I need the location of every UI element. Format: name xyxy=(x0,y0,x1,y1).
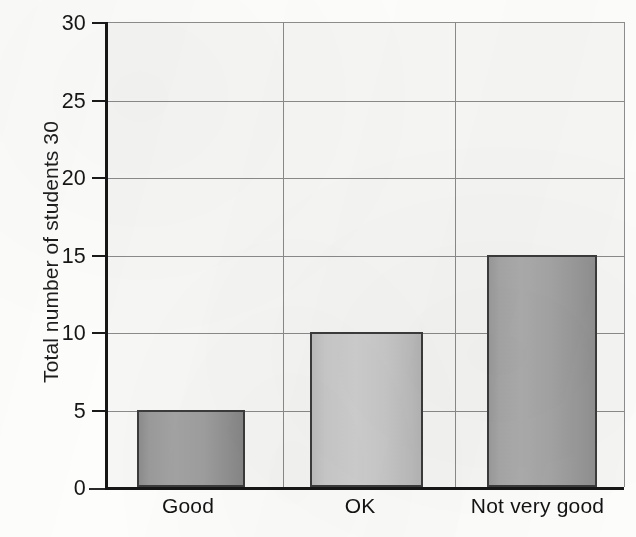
x-axis-line xyxy=(105,487,624,490)
y-tick-mark-15 xyxy=(92,255,105,257)
x-tick-label-not-very-good: Not very good xyxy=(455,494,620,518)
y-tick-mark-25 xyxy=(92,100,105,102)
y-tick-label-25: 25 xyxy=(40,88,86,113)
gridline-x-2 xyxy=(455,22,456,487)
gridline-y-25 xyxy=(108,101,625,102)
plot-area xyxy=(105,22,625,487)
bar-good-fill xyxy=(139,412,243,486)
y-tick-label-15: 15 xyxy=(40,243,86,268)
x-tick-label-ok: OK xyxy=(300,494,420,518)
bar-chart-figure: Total number of students 30 30 25 20 15 … xyxy=(0,0,636,537)
bar-not-very-good[interactable] xyxy=(487,255,597,488)
bar-good[interactable] xyxy=(137,410,245,488)
y-tick-label-5: 5 xyxy=(40,398,86,423)
gridline-x-1 xyxy=(283,22,284,487)
y-tick-label-0: 0 xyxy=(40,476,86,501)
y-tick-mark-30 xyxy=(92,22,105,24)
bar-ok[interactable] xyxy=(310,332,423,487)
plot-inner xyxy=(108,22,625,487)
y-tick-mark-10 xyxy=(92,332,105,334)
plot-border-right xyxy=(624,22,625,487)
plot-border-top xyxy=(108,22,625,23)
y-tick-mark-5 xyxy=(92,410,105,412)
gridline-y-20 xyxy=(108,178,625,179)
y-axis-tick-labels: 30 25 20 15 10 5 0 xyxy=(36,0,86,537)
y-tick-label-20: 20 xyxy=(40,166,86,191)
bar-not-very-good-fill xyxy=(489,257,595,486)
y-tick-label-30: 30 xyxy=(40,11,86,36)
y-tick-label-10: 10 xyxy=(40,321,86,346)
x-tick-label-good: Good xyxy=(128,494,248,518)
y-tick-mark-0 xyxy=(89,488,106,490)
y-tick-mark-20 xyxy=(92,177,105,179)
bar-ok-fill xyxy=(312,334,421,485)
